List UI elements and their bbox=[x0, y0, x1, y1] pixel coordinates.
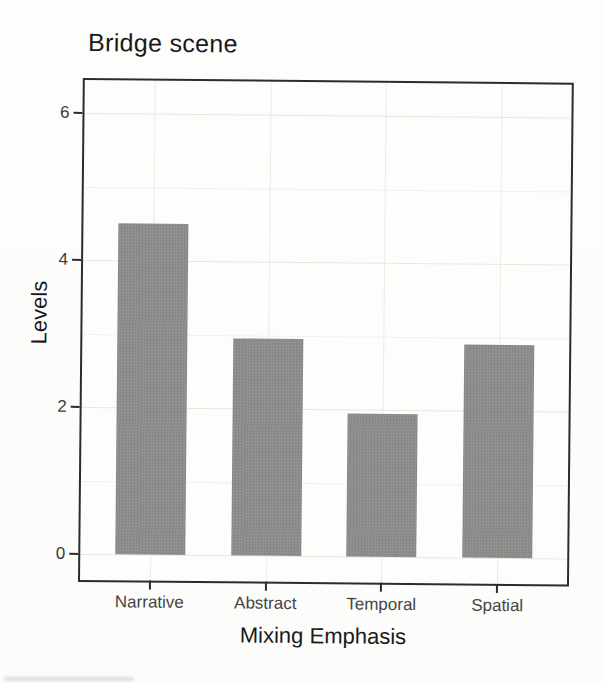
y-tick-mark bbox=[69, 553, 78, 555]
scanned-chart-page: Bridge scene Levels 0246 NarrativeAbstra… bbox=[0, 0, 604, 683]
bar-series bbox=[85, 80, 572, 85]
x-tick-label: Narrative bbox=[89, 592, 209, 613]
bar-chart-figure: Bridge scene Levels 0246 NarrativeAbstra… bbox=[0, 0, 604, 683]
y-tick-mark bbox=[71, 406, 80, 408]
bar-spatial bbox=[463, 345, 535, 559]
gridlines bbox=[85, 80, 572, 85]
y-axis-title: Levels bbox=[25, 162, 54, 462]
y-tick-mark bbox=[72, 259, 81, 261]
plot-panel bbox=[80, 80, 572, 585]
y-tick-label: 4 bbox=[8, 249, 68, 270]
x-tick-mark bbox=[264, 582, 266, 591]
y-axis-ticks: 0246 bbox=[1, 0, 604, 5]
y-tick-label: 2 bbox=[7, 396, 67, 417]
x-axis-title: Mixing Emphasis bbox=[79, 621, 566, 652]
scan-smudge-artifact bbox=[4, 677, 134, 681]
x-tick-label: Abstract bbox=[205, 593, 325, 614]
x-axis-ticks: NarrativeAbstractTemporalSpatial bbox=[1, 0, 604, 5]
y-tick-mark bbox=[73, 112, 82, 114]
y-tick-label: 0 bbox=[5, 543, 65, 564]
bar-narrative bbox=[115, 224, 188, 556]
x-tick-mark bbox=[380, 583, 382, 592]
x-tick-label: Temporal bbox=[321, 594, 441, 615]
major-gridline bbox=[84, 113, 571, 119]
x-tick-label: Spatial bbox=[437, 595, 557, 616]
minor-gridline bbox=[84, 187, 571, 193]
x-tick-mark bbox=[148, 581, 150, 590]
bar-abstract bbox=[231, 339, 303, 557]
x-tick-mark bbox=[496, 584, 498, 593]
bar-temporal bbox=[347, 413, 418, 557]
y-tick-label: 6 bbox=[9, 102, 69, 123]
chart-title: Bridge scene bbox=[88, 28, 238, 58]
